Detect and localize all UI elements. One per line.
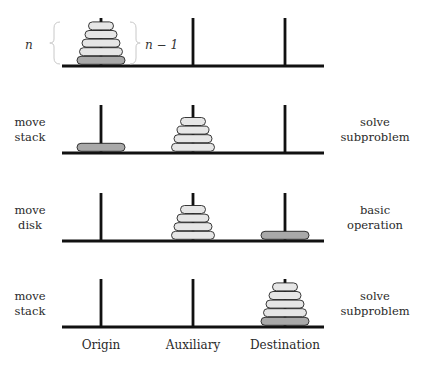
small-disk bbox=[174, 223, 212, 231]
large-disk bbox=[261, 231, 309, 239]
small-disk bbox=[269, 292, 301, 300]
large-disk bbox=[77, 143, 125, 151]
row-2-left-label: move stack bbox=[8, 115, 52, 145]
n-minus-1-brace bbox=[130, 22, 140, 64]
peg-destination bbox=[284, 18, 287, 66]
small-disk bbox=[181, 118, 206, 126]
small-disk bbox=[181, 206, 206, 214]
small-disk bbox=[80, 48, 123, 56]
small-disk bbox=[264, 309, 307, 317]
row-4-left-label: move stack bbox=[8, 289, 52, 319]
peg-destination bbox=[284, 105, 287, 153]
n-minus-1-label: n − 1 bbox=[145, 38, 178, 52]
n-brace bbox=[50, 22, 60, 64]
small-disk bbox=[172, 231, 215, 239]
column-label-auxiliary: Auxiliary bbox=[148, 338, 238, 352]
row-3-right-label: basic operation bbox=[335, 203, 415, 233]
large-disk bbox=[261, 317, 309, 325]
small-disk bbox=[82, 39, 120, 47]
column-label-destination: Destination bbox=[240, 338, 330, 352]
row-4-right-label: solve subproblem bbox=[335, 289, 415, 319]
large-disk bbox=[77, 56, 125, 64]
row-3-left-label: move disk bbox=[8, 203, 52, 233]
peg-auxiliary bbox=[192, 18, 195, 66]
small-disk bbox=[174, 135, 212, 143]
small-disk bbox=[172, 143, 215, 151]
small-disk bbox=[85, 31, 117, 39]
peg-origin bbox=[100, 279, 103, 327]
peg-auxiliary bbox=[192, 279, 195, 327]
small-disk bbox=[273, 283, 298, 291]
small-disk bbox=[89, 22, 114, 30]
row-2-right-label: solve subproblem bbox=[335, 115, 415, 145]
peg-origin bbox=[100, 193, 103, 241]
column-label-origin: Origin bbox=[56, 338, 146, 352]
n-label: n bbox=[25, 38, 33, 52]
small-disk bbox=[266, 300, 304, 308]
small-disk bbox=[177, 214, 209, 222]
small-disk bbox=[177, 126, 209, 134]
